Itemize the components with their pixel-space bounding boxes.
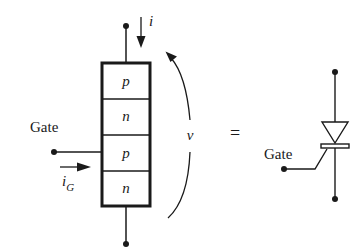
- gate-label-symbol: Gate: [264, 146, 293, 162]
- layer-label-p2: p: [121, 145, 130, 161]
- diode-triangle-icon: [322, 122, 348, 143]
- cathode-terminal-dot: [123, 241, 129, 247]
- cathode-bar: [321, 144, 349, 148]
- current-label: i: [149, 13, 153, 29]
- voltage-label: v: [187, 127, 194, 143]
- voltage-arc-upper: [171, 58, 190, 120]
- pnpn-structure: i p n p n Gate iG v: [30, 13, 194, 247]
- layer-label-p1: p: [121, 73, 130, 89]
- anode-current-arrow-icon: [137, 17, 146, 48]
- gate-current-label: iG: [62, 173, 74, 193]
- thyristor-symbol: Gate: [264, 69, 349, 202]
- gate-current-arrow-icon: [60, 163, 91, 172]
- equals-sign: =: [230, 123, 240, 143]
- gate-label-left: Gate: [30, 119, 59, 135]
- thyristor-diagram: i p n p n Gate iG v =: [0, 0, 364, 252]
- voltage-arrow-icon: [165, 50, 177, 62]
- voltage-arc-lower: [168, 152, 190, 218]
- layer-label-n2: n: [122, 180, 130, 196]
- layer-label-n1: n: [122, 108, 130, 124]
- symbol-cathode-dot: [332, 196, 338, 202]
